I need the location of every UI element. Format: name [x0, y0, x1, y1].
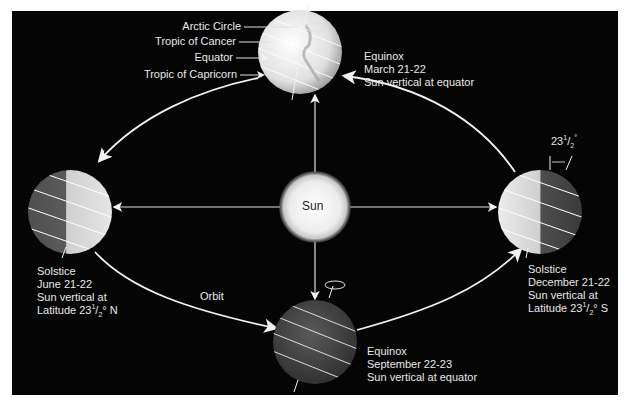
june-description: Sun vertical at [37, 291, 118, 304]
earth-december [490, 156, 590, 260]
december-title: Solstice [528, 263, 610, 276]
june-title: Solstice [37, 265, 118, 278]
label-tropic-of-cancer: Tropic of Cancer [155, 35, 236, 48]
label-tropic-of-capricorn: Tropic of Capricorn [144, 68, 237, 81]
orbit-label: Orbit [200, 290, 224, 303]
december-latitude: Latitude 231/2° S [528, 302, 610, 315]
earth-march [250, 6, 350, 102]
september-caption: Equinox September 22-23 Sun vertical at … [367, 345, 477, 384]
sun-label: Sun [302, 200, 323, 213]
march-description: Sun vertical at equator [364, 76, 474, 89]
label-arctic-circle: Arctic Circle [182, 20, 241, 33]
june-caption: Solstice June 21-22 Sun vertical at Lati… [37, 265, 118, 317]
december-caption: Solstice December 21-22 Sun vertical at … [528, 263, 610, 315]
tilt-angle-label: 231/2° [551, 135, 577, 148]
june-latitude: Latitude 231/2° N [37, 304, 118, 317]
march-title: Equinox [364, 50, 474, 63]
label-equator: Equator [194, 51, 233, 64]
december-date: December 21-22 [528, 276, 610, 289]
earth-june [20, 150, 120, 260]
june-date: June 21-22 [37, 278, 118, 291]
september-date: September 22-23 [367, 358, 477, 371]
september-title: Equinox [367, 345, 477, 358]
march-date: March 21-22 [364, 63, 474, 76]
september-description: Sun vertical at equator [367, 371, 477, 384]
december-description: Sun vertical at [528, 289, 610, 302]
march-caption: Equinox March 21-22 Sun vertical at equa… [364, 50, 474, 89]
